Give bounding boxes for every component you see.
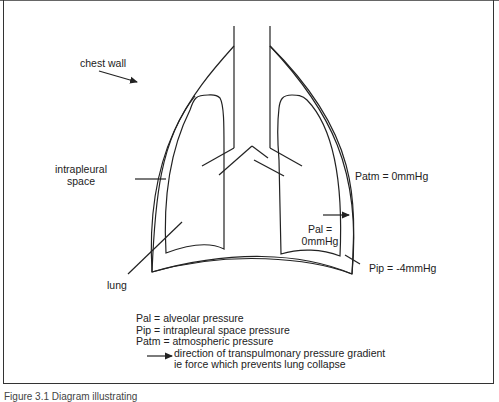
- intrapleural-space-label: intrapleural space: [51, 163, 111, 187]
- legend-item-pal: Pal = alveolar pressure: [136, 313, 385, 325]
- figure-caption: Figure 3.1 Diagram illustrating: [4, 391, 137, 402]
- right-bronchus-upper: [270, 148, 302, 166]
- chest-wall-label: chest wall: [80, 57, 126, 69]
- pal-label: Pal = 0mmHg: [295, 223, 345, 247]
- left-bronchus-upper: [202, 148, 234, 166]
- legend-item-patm: Patm = atmospheric pressure: [136, 336, 385, 348]
- pip-label: Pip = -4mmHg: [369, 262, 436, 274]
- chest-wall-arrow: [99, 71, 137, 82]
- legend-arrow-text-2: ie force which prevents lung collapse: [136, 359, 385, 371]
- patm-label: Patm = 0mmHg: [355, 170, 428, 182]
- lung-label: lung: [107, 279, 127, 291]
- legend: Pal = alveolar pressure Pip = intrapleur…: [136, 313, 385, 371]
